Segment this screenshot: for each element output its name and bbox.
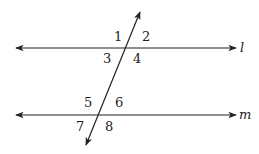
angle-label-3: 3 (103, 51, 111, 66)
angle-label-7: 7 (76, 119, 84, 134)
diagram-canvas: lm 12345678 (0, 0, 259, 154)
angle-label-8: 8 (105, 119, 113, 134)
angle-label-2: 2 (142, 29, 150, 44)
angle-label-5: 5 (84, 95, 92, 110)
parallel-lines-diagram: lm 12345678 (0, 0, 259, 154)
line-label-l: l (240, 40, 244, 55)
angle-label-4: 4 (133, 51, 141, 66)
line-label-m: m (239, 107, 251, 122)
angle-label-6: 6 (115, 95, 123, 110)
angle-labels: 12345678 (76, 29, 150, 134)
angle-label-1: 1 (114, 29, 122, 44)
